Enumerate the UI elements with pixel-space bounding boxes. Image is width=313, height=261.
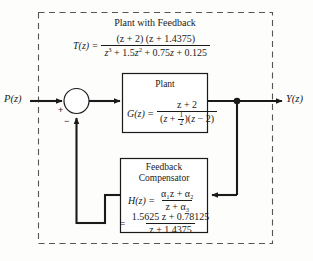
compensator-numeric-numerator: 1.5625 z + 0.78125 xyxy=(129,211,213,223)
summing-plus-sign: + xyxy=(58,106,63,115)
feedback-block-title-line2: Compensator xyxy=(120,174,208,184)
output-label: Y(z) xyxy=(286,93,303,104)
summing-junction xyxy=(64,89,89,114)
compensator-numeric-fraction: 1.5625 z + 0.78125 z + 1.4375 xyxy=(129,211,213,235)
transfer-function-numerator: (z + 2) (z + 1.4375) xyxy=(114,33,198,45)
plant-denominator: (z + 12)(z − 2) xyxy=(157,111,217,128)
plant-transfer-function: G(z) = z + 2 (z + 12)(z − 2) xyxy=(127,99,217,127)
input-label: P(z) xyxy=(4,93,22,104)
transfer-function-denominator: z3 + 1.5z2 + 0.75z + 0.125 xyxy=(101,45,210,59)
plant-transfer-function-lhs: G(z) = xyxy=(127,108,157,119)
plant-with-feedback-label: Plant with Feedback xyxy=(38,18,272,29)
compensator-lhs: H(z) = xyxy=(128,195,158,206)
compensator-numeric-equation: = 1.5625 z + 0.78125 z + 1.4375 xyxy=(119,211,212,235)
overall-transfer-function: T(z) = (z + 2) (z + 1.4375) z3 + 1.5z2 +… xyxy=(73,33,210,58)
block-diagram-figure: P(z) Y(z) + − Plant with Feedback T(z) =… xyxy=(0,0,313,261)
plant-block-title: Plant xyxy=(122,80,208,90)
summing-minus-sign: − xyxy=(64,117,69,126)
compensator-symbolic-fraction: α₁z + α₂ z + α₃ xyxy=(158,188,197,212)
plant-transfer-function-fraction: z + 2 (z + 12)(z − 2) xyxy=(157,99,217,127)
compensator-equals-sign: = xyxy=(119,218,129,229)
compensator-numeric-denominator: z + 1.4375 xyxy=(146,223,195,236)
transfer-function-lhs: T(z) = xyxy=(73,40,101,51)
transfer-function-fraction: (z + 2) (z + 1.4375) z3 + 1.5z2 + 0.75z … xyxy=(101,33,210,58)
compensator-symbolic-numerator: α₁z + α₂ xyxy=(158,188,197,200)
compensator-symbolic-equation: H(z) = α₁z + α₂ z + α₃ xyxy=(128,188,197,212)
plant-numerator: z + 2 xyxy=(174,99,200,111)
feedback-block-title-line1: Feedback xyxy=(120,163,208,173)
